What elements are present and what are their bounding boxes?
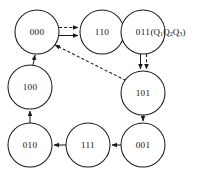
state-variable-legend-text: (Q1Q2Q3) bbox=[151, 27, 186, 38]
state-node-010-label: 010 bbox=[23, 140, 38, 150]
state-node-100-label: 100 bbox=[23, 82, 38, 92]
state-diagram-canvas: 000 110 011 101 001 111 bbox=[0, 0, 205, 170]
state-node-101[interactable]: 101 bbox=[121, 71, 165, 115]
node-layer: 000 110 011 101 001 111 bbox=[8, 10, 165, 167]
state-node-000[interactable]: 000 bbox=[15, 10, 59, 54]
state-node-010[interactable]: 010 bbox=[8, 123, 52, 167]
state-node-111-label: 111 bbox=[81, 140, 95, 150]
state-node-110[interactable]: 110 bbox=[80, 10, 124, 54]
state-variable-legend: (Q1Q2Q3) bbox=[151, 27, 186, 38]
state-diagram-container: 000 110 011 101 001 111 bbox=[0, 0, 205, 170]
state-node-110-label: 110 bbox=[95, 27, 109, 37]
state-node-011-label: 011 bbox=[136, 27, 150, 37]
state-node-001[interactable]: 001 bbox=[121, 123, 165, 167]
state-node-000-label: 000 bbox=[30, 27, 45, 37]
legend-prefix: (Q bbox=[151, 27, 161, 37]
state-node-111[interactable]: 111 bbox=[66, 123, 110, 167]
state-node-101-label: 101 bbox=[136, 88, 151, 98]
state-node-100[interactable]: 100 bbox=[8, 65, 52, 109]
legend-suffix: ) bbox=[182, 27, 185, 37]
edge-100-to-000 bbox=[33, 55, 35, 65]
state-node-001-label: 001 bbox=[136, 140, 151, 150]
